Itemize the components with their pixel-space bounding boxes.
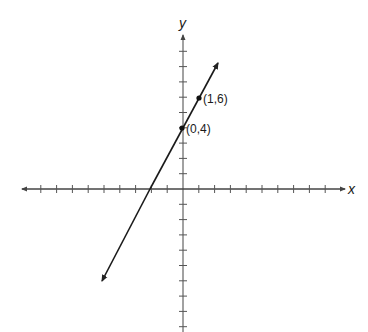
- x-axis-label: x: [347, 181, 356, 197]
- point-1-6: [196, 95, 201, 100]
- y-axis-label: y: [178, 15, 187, 31]
- y-axis: [179, 35, 187, 332]
- point-1-6-label: (1,6): [203, 92, 228, 106]
- plotted-line: [102, 63, 218, 281]
- point-0-4-label: (0,4): [186, 122, 211, 136]
- coordinate-plane: x y (0,4) (1,6): [0, 0, 368, 332]
- point-0-4: [179, 125, 184, 130]
